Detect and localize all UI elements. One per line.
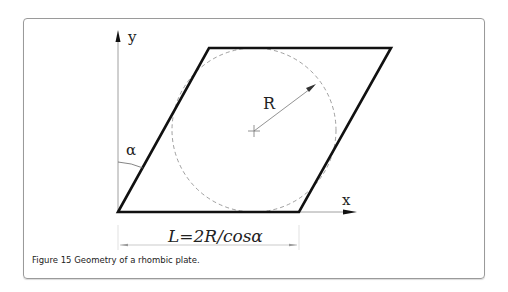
angle-label: α: [126, 141, 136, 159]
x-axis-label: x: [342, 191, 351, 209]
rhombus-plate: [118, 48, 391, 212]
y-axis-label: y: [127, 28, 137, 46]
x-axis-arrowhead-icon: [343, 210, 357, 215]
dimension-label: L=2R/cosα: [167, 226, 263, 246]
radius-label: R: [263, 94, 276, 113]
dimension-arrow-left-icon: [120, 244, 128, 246]
y-axis-arrowhead-icon: [116, 30, 121, 42]
figure-caption: Figure 15 Geometry of a rhombic plate.: [32, 255, 200, 265]
dimension-arrow-right-icon: [289, 244, 297, 246]
angle-arc: [118, 162, 143, 168]
rhombic-plate-diagram: y x R α L=2R/cosα: [0, 0, 508, 292]
